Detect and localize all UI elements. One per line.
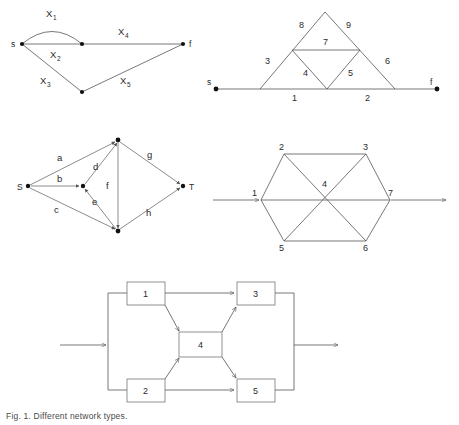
edge-label-b: b <box>57 173 62 184</box>
edge-5-1 <box>261 200 284 241</box>
edge-label-e: e <box>92 196 97 207</box>
edge-label-x4: X <box>118 26 125 37</box>
edge-e <box>85 189 116 229</box>
block-label-1: 1 <box>143 289 148 299</box>
edge-label-x5: X <box>120 75 127 86</box>
terminal-label-f: f <box>189 39 192 49</box>
block-label-2: 2 <box>143 386 148 396</box>
edge-1-2 <box>261 154 284 200</box>
edge-5 <box>327 50 360 89</box>
edge-label-f: f <box>106 180 109 191</box>
edge-label-5: 5 <box>348 68 353 78</box>
node-S <box>26 184 30 188</box>
node-T <box>181 184 185 188</box>
figure-caption: Fig. 1. Different network types. <box>6 411 128 421</box>
edge-a <box>30 142 115 185</box>
edge-4-to-5 <box>222 357 236 378</box>
edge-x5 <box>82 44 183 92</box>
terminal-label-f: f <box>430 77 433 87</box>
terminal-label-s: s <box>11 39 15 49</box>
edge-label-x4-sub: 4 <box>125 32 129 39</box>
node-top <box>116 138 121 143</box>
edge-label-a: a <box>57 152 63 163</box>
node-label-7: 7 <box>388 188 393 198</box>
edge-label-8: 8 <box>299 20 304 30</box>
edge-1-to-4 <box>165 305 179 331</box>
edge-label-x2: X <box>50 49 57 60</box>
block-label-3: 3 <box>253 289 258 299</box>
edge-label-7: 7 <box>323 37 328 47</box>
node-label-5: 5 <box>279 243 284 253</box>
figure-hexagon-network: 1 2 3 4 5 6 7 <box>213 142 446 253</box>
node-f <box>181 42 185 46</box>
edge-x1 <box>22 32 82 45</box>
node-label-6: 6 <box>363 243 368 253</box>
edge-c <box>30 188 115 229</box>
node-bottom <box>80 90 84 94</box>
node-f <box>435 87 440 92</box>
edge-label-h: h <box>146 207 151 218</box>
node-label-1: 1 <box>252 188 257 198</box>
block-label-4: 4 <box>198 340 203 350</box>
node-label-2: 2 <box>279 142 284 152</box>
node-middle <box>80 42 84 46</box>
terminal-label-S: S <box>17 182 23 192</box>
edge-label-x5-sub: 5 <box>127 81 131 88</box>
figure-sheet: s f X 1 X 2 X 3 X 4 X 5 s f 1 2 3 4 5 6 … <box>0 0 459 425</box>
figure-st-digraph: S T a b c d e f g h <box>17 138 194 234</box>
node-mid <box>81 184 85 188</box>
edge-4-to-3 <box>222 307 236 332</box>
terminal-label-T: T <box>189 182 194 192</box>
node-bottom <box>116 229 121 234</box>
edge-3-7 <box>366 154 390 200</box>
node-label-3: 3 <box>363 142 368 152</box>
figure-bridge-multigraph: s f X 1 X 2 X 3 X 4 X 5 <box>11 8 192 94</box>
edge-label-x1: X <box>46 8 53 19</box>
edge-label-2: 2 <box>365 93 370 103</box>
terminal-label-s: s <box>207 77 211 87</box>
edge-4 <box>292 50 327 89</box>
edge-label-d: d <box>93 161 98 172</box>
edge-label-1: 1 <box>292 93 297 103</box>
figure-block-diagram: 1 2 3 4 5 <box>60 282 338 402</box>
edge-label-g: g <box>147 149 152 160</box>
edge-label-3: 3 <box>265 56 270 66</box>
node-label-4: 4 <box>322 179 327 189</box>
edge-label-4: 4 <box>303 68 308 78</box>
edge-label-x1-sub: 1 <box>53 14 57 21</box>
node-s <box>214 87 219 92</box>
figure-sierpinski-ladder: s f 1 2 3 4 5 6 7 8 9 <box>207 12 439 103</box>
edge-label-x3: X <box>40 75 47 86</box>
node-s <box>20 42 24 46</box>
edge-label-6: 6 <box>385 56 390 66</box>
edge-label-x2-sub: 2 <box>57 55 61 62</box>
edge-2-to-4 <box>165 358 179 379</box>
edge-label-c: c <box>54 204 59 215</box>
edge-label-9: 9 <box>346 20 351 30</box>
edge-label-x3-sub: 3 <box>47 81 51 88</box>
block-label-5: 5 <box>253 386 258 396</box>
edge-7-6 <box>366 200 390 241</box>
